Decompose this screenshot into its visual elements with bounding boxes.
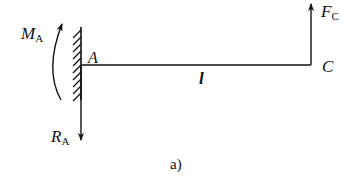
moment-label: MA (20, 24, 43, 44)
diagram-canvas: MA A RA l C FC a) (0, 0, 355, 187)
force-label: FC (320, 2, 339, 22)
point-c-label: C (322, 57, 334, 76)
moment-arc-icon (53, 24, 62, 100)
beam-diagram: MA A RA l C FC a) (0, 0, 355, 187)
figure-caption: a) (170, 156, 182, 173)
reaction-label: RA (50, 127, 69, 147)
point-a-label: A (87, 49, 98, 66)
length-label: l (199, 69, 204, 88)
fixed-support-wall (73, 27, 81, 101)
